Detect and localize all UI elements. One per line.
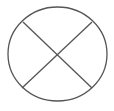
circle-cross-diagram — [0, 0, 114, 111]
